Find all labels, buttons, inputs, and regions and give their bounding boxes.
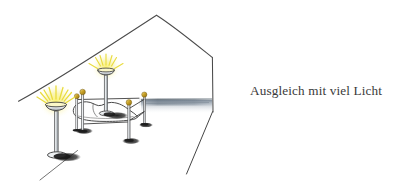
caption-text: Ausgleich mit viel Licht — [250, 83, 400, 98]
lamp-pole — [104, 76, 107, 114]
lamp-pole — [54, 112, 58, 155]
illustration-canvas: Ausgleich mit viel Licht — [0, 0, 406, 188]
wall-haze-band — [139, 99, 213, 114]
sketch-illustration — [0, 0, 228, 188]
floor-lamp-left — [37, 83, 81, 162]
